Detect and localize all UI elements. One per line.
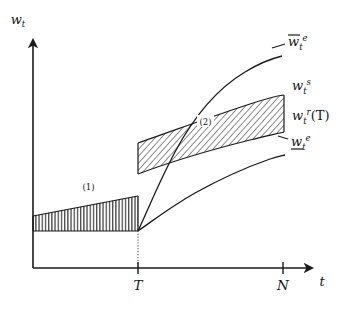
region-1-label: (1)	[82, 182, 94, 192]
region-1-label-group: (1)	[80, 180, 97, 192]
lbl-sub-2: t	[303, 86, 307, 96]
lbl-arg-3: (T)	[311, 108, 330, 123]
curve-label-w-underbar-e: wte	[291, 133, 311, 152]
diagram-canvas: wt t T N wte wts wtr(T) wte (1) (2	[0, 0, 342, 309]
x-tick-label-N: N	[276, 277, 290, 293]
curve-label-w-r-T: wtr(T)	[292, 107, 329, 126]
lbl-base-1: w	[288, 34, 299, 49]
curve-label-w-bar-e: wte	[288, 33, 308, 52]
lbl-base-2: w	[292, 78, 303, 93]
curve-label-w-s: wts	[292, 77, 312, 96]
y-axis-label: wt	[11, 12, 26, 29]
region-2-label: (2)	[199, 117, 211, 127]
y-axis-label-sub: t	[22, 19, 26, 29]
region-2-label-group: (2)	[197, 115, 214, 127]
lbl-sub-4: t	[302, 142, 306, 152]
lbl-sup-2: s	[307, 77, 312, 87]
lbl-sub-1: t	[299, 42, 303, 52]
leader-w-underbar-e	[278, 136, 288, 139]
y-axis-label-base: w	[11, 12, 22, 27]
lbl-base-4: w	[291, 134, 302, 149]
x-axis-label: t	[319, 274, 325, 289]
leader-w-bar-e	[272, 44, 285, 48]
wage-paths-diagram: wt t T N wte wts wtr(T) wte (1) (2	[0, 0, 342, 309]
curve-label-w-bar-e-text: wte	[288, 33, 308, 52]
lbl-sub-3: t	[303, 116, 307, 126]
lbl-base-3: w	[292, 108, 303, 123]
x-tick-label-T: T	[133, 277, 143, 293]
lbl-sup-4: e	[306, 133, 311, 143]
region-1-hatched-wedge	[33, 196, 138, 231]
lbl-sup-1: e	[303, 33, 308, 43]
